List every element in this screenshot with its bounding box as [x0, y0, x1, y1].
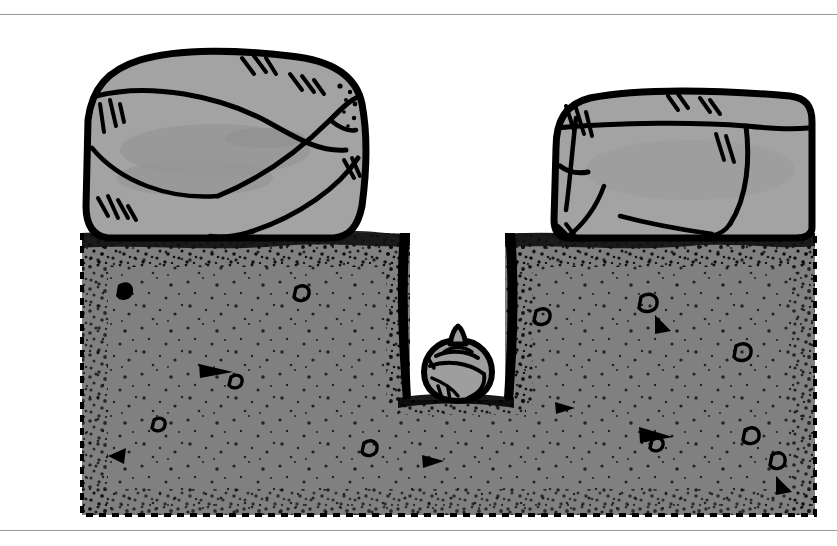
bulb-neck: [450, 326, 466, 344]
soil-cross-section-scene: [0, 0, 837, 546]
illustration-canvas: Cross-section of soil with boulders and …: [0, 0, 837, 546]
rock-right-shading: [585, 140, 795, 200]
rock-left: [86, 51, 366, 238]
rock-right: [554, 91, 812, 240]
bulb: [424, 326, 492, 401]
